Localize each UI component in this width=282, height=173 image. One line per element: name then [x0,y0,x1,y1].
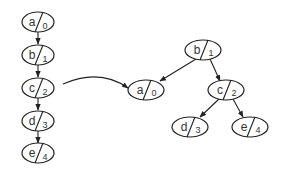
node-label: a [29,15,36,29]
tree-node-a: a 0 [128,80,164,100]
edge-c-e [233,99,243,117]
left-node-a: a 0 [22,12,54,32]
node-index: 2 [231,88,236,98]
node-label: c [217,83,223,97]
tree-node-d: d 3 [172,117,208,137]
node-label: e [29,146,36,160]
node-index: 0 [42,21,47,31]
node-index: 4 [42,152,47,162]
edge-b-c [210,59,220,81]
left-node-b: b 1 [22,45,54,65]
node-label: b [29,48,36,62]
node-index: 1 [208,48,213,58]
left-node-e: e 4 [22,143,54,163]
tree-node-c: c 2 [208,80,244,100]
node-index: 0 [151,88,156,98]
node-index: 1 [42,54,47,64]
node-index: 4 [255,125,260,135]
node-label: a [137,83,144,97]
node-label: e [241,120,248,134]
tree-node-b: b 1 [185,40,221,60]
left-node-c: c 2 [22,78,54,98]
node-label: d [181,120,188,134]
diagram-canvas: a 0 b 1 c 2 d 3 e 4 b 1 [0,0,282,173]
node-index: 3 [195,125,200,135]
node-label: b [194,43,201,57]
edge-c-d [200,99,219,117]
node-label: d [29,114,36,128]
node-label: c [29,81,35,95]
transform-arrow [63,77,128,88]
node-index: 2 [42,87,47,97]
tree-node-e: e 4 [232,117,268,137]
left-node-d: d 3 [22,111,54,131]
edge-b-a [160,59,196,81]
node-index: 3 [42,120,47,130]
